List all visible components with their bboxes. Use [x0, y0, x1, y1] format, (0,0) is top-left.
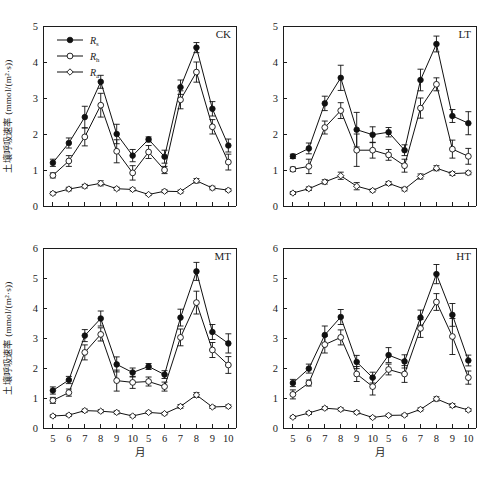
svg-text:10: 10 — [127, 433, 138, 444]
svg-text:8: 8 — [194, 433, 199, 444]
svg-text:7: 7 — [322, 433, 327, 444]
svg-text:5: 5 — [50, 433, 55, 444]
svg-text:2: 2 — [33, 129, 38, 140]
panel-lt: 012345LT — [240, 10, 481, 248]
svg-text:0: 0 — [273, 423, 278, 434]
caption-remnant — [0, 0, 483, 9]
svg-text:0: 0 — [33, 201, 38, 212]
svg-text:2: 2 — [33, 363, 38, 374]
svg-text:MT: MT — [215, 250, 232, 262]
panel-ck-plot: 012345土壤呼吸速率 (mmol/(m²·s))CKRsRhRa — [0, 10, 241, 248]
svg-text:10: 10 — [223, 433, 234, 444]
svg-text:4: 4 — [273, 303, 279, 314]
panel-ht: 012345656789105678910月HT — [240, 232, 481, 470]
svg-text:7: 7 — [418, 433, 423, 444]
svg-text:1: 1 — [273, 165, 278, 176]
svg-text:6: 6 — [273, 243, 278, 254]
svg-text:7: 7 — [178, 433, 183, 444]
panel-ck: 012345土壤呼吸速率 (mmol/(m²·s))CKRsRhRa — [0, 10, 241, 248]
svg-text:4: 4 — [33, 57, 39, 68]
svg-text:6: 6 — [66, 433, 71, 444]
svg-text:3: 3 — [273, 93, 278, 104]
svg-text:8: 8 — [98, 433, 103, 444]
svg-text:5: 5 — [273, 273, 278, 284]
svg-text:0: 0 — [33, 423, 38, 434]
svg-text:10: 10 — [463, 433, 474, 444]
svg-text:LT: LT — [459, 28, 472, 40]
svg-text:5: 5 — [33, 21, 38, 32]
svg-text:月: 月 — [135, 447, 145, 458]
figure-root: 012345土壤呼吸速率 (mmol/(m²·s))CKRsRhRa 01234… — [0, 0, 483, 486]
svg-text:6: 6 — [162, 433, 167, 444]
svg-text:5: 5 — [146, 433, 151, 444]
svg-text:3: 3 — [33, 93, 38, 104]
svg-text:土壤呼吸速率 (mmol/(m²·s)): 土壤呼吸速率 (mmol/(m²·s)) — [2, 59, 13, 172]
svg-text:9: 9 — [114, 433, 119, 444]
panel-mt: 012345656789105678910月土壤呼吸速率 (mmol/(m²·s… — [0, 232, 241, 470]
panel-lt-plot: 012345LT — [240, 10, 481, 248]
svg-text:7: 7 — [82, 433, 87, 444]
svg-text:8: 8 — [434, 433, 439, 444]
svg-text:1: 1 — [33, 165, 38, 176]
svg-text:5: 5 — [290, 433, 295, 444]
svg-text:Rs: Rs — [89, 35, 99, 48]
svg-text:土壤呼吸速率 (mmol/(m²·s)): 土壤呼吸速率 (mmol/(m²·s)) — [2, 281, 13, 394]
svg-text:2: 2 — [273, 363, 278, 374]
svg-text:9: 9 — [210, 433, 215, 444]
svg-text:3: 3 — [33, 333, 38, 344]
svg-text:4: 4 — [273, 57, 279, 68]
svg-text:1: 1 — [33, 393, 38, 404]
svg-text:6: 6 — [402, 433, 407, 444]
svg-text:2: 2 — [273, 129, 278, 140]
svg-text:5: 5 — [33, 273, 38, 284]
svg-text:5: 5 — [273, 21, 278, 32]
svg-text:1: 1 — [273, 393, 278, 404]
svg-text:HT: HT — [456, 250, 471, 262]
svg-text:4: 4 — [33, 303, 39, 314]
svg-text:9: 9 — [354, 433, 359, 444]
svg-text:6: 6 — [306, 433, 311, 444]
svg-text:3: 3 — [273, 333, 278, 344]
svg-text:6: 6 — [33, 243, 38, 254]
svg-text:5: 5 — [386, 433, 391, 444]
svg-text:月: 月 — [375, 447, 385, 458]
svg-text:0: 0 — [273, 201, 278, 212]
panel-mt-plot: 012345656789105678910月土壤呼吸速率 (mmol/(m²·s… — [0, 232, 241, 470]
svg-text:8: 8 — [338, 433, 343, 444]
svg-text:CK: CK — [216, 28, 231, 40]
svg-text:Rh: Rh — [89, 51, 100, 64]
svg-text:9: 9 — [450, 433, 455, 444]
panel-ht-plot: 012345656789105678910月HT — [240, 232, 481, 470]
svg-text:Ra: Ra — [89, 67, 99, 80]
svg-text:10: 10 — [367, 433, 378, 444]
panel-grid: 012345土壤呼吸速率 (mmol/(m²·s))CKRsRhRa 01234… — [0, 10, 483, 486]
